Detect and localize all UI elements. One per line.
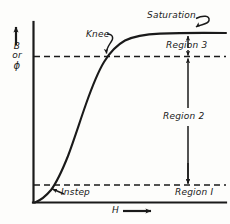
bh-curve-figure: B or ϕ H Saturation Knee Instep Region 3…: [0, 0, 230, 224]
y-axis-label-phi: ϕ: [6, 61, 28, 72]
region1-label: Region I: [175, 188, 213, 197]
knee-annotation: Knee: [86, 30, 109, 39]
instep-annotation: Instep: [61, 188, 90, 197]
saturation-annotation: Saturation: [147, 11, 196, 20]
region2-label: Region 2: [163, 112, 204, 121]
y-axis-label: B or ϕ: [6, 42, 28, 71]
region3-label: Region 3: [166, 41, 207, 50]
saturation-leader-line: [196, 16, 209, 27]
x-axis-label: H: [112, 206, 119, 215]
